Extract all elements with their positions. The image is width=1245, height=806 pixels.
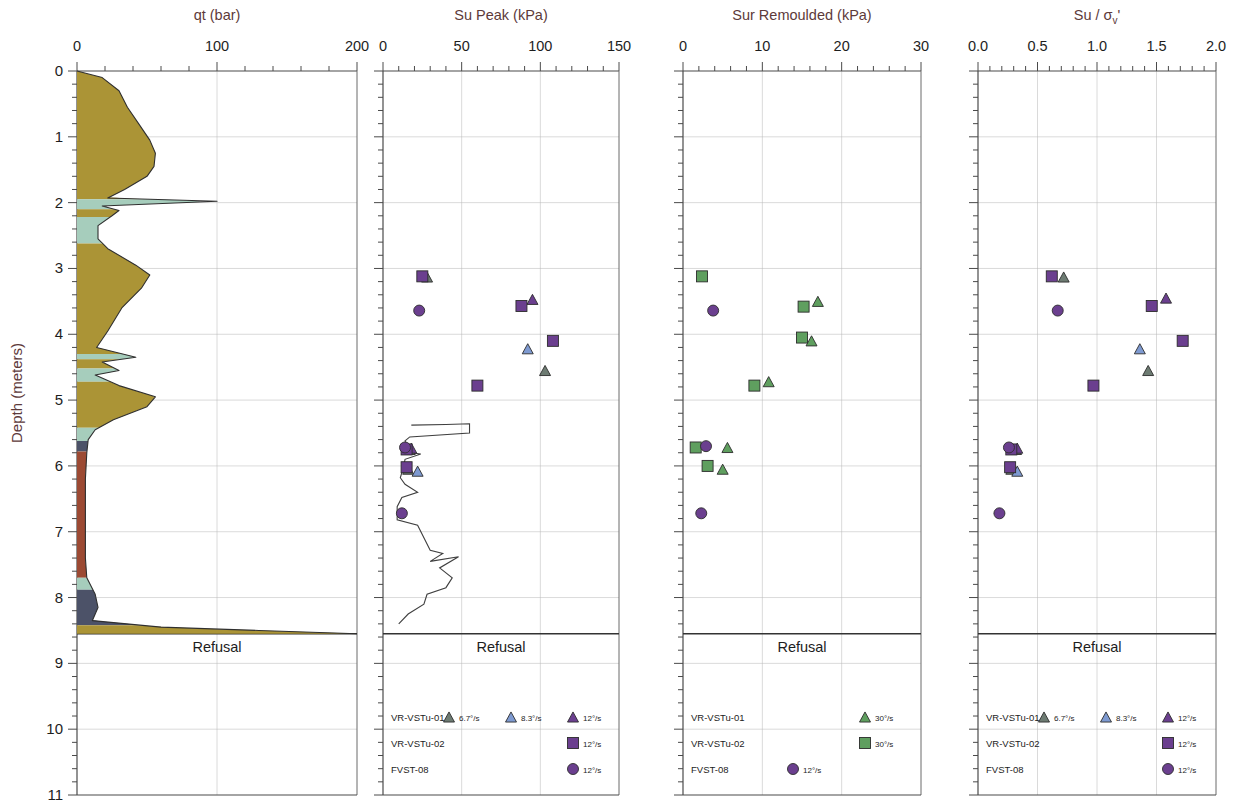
x-tick-label-su-peak-3: 150 [607, 38, 631, 54]
y-tick-label-0: 0 [55, 62, 63, 79]
data-point-su-sigma-0-0 [1058, 272, 1069, 282]
data-point-sur-remoulded-1-5 [702, 460, 713, 471]
data-point-su-peak-1-1 [412, 466, 423, 476]
data-point-su-sigma-1-0 [1134, 344, 1145, 354]
qt-band-13 [77, 590, 140, 626]
y-tick-label-3: 3 [55, 259, 63, 276]
legend-marker-su-sigma-0-2 [1163, 712, 1174, 722]
refusal-label-su-peak: Refusal [476, 639, 525, 655]
legend-rate-su-peak-0-1: 8.3°/s [521, 714, 542, 723]
legend-label-su-sigma-2: FVST-08 [986, 764, 1024, 775]
legend-marker-sur-remoulded-1-0 [860, 738, 871, 749]
legend-rate-su-sigma-2-0: 12°/s [1178, 766, 1196, 775]
panel-sur-remoulded: Sur Remoulded (kPa)0102030Refusal [674, 7, 929, 795]
legend-sur-remoulded: VR-VSTu-0130°/sVR-VSTu-0230°/sFVST-0812°… [691, 712, 893, 775]
data-point-su-sigma-3-1 [1146, 300, 1157, 311]
scatter-su-peak [396, 271, 558, 519]
x-tick-label-su-sigma-0: 0.0 [968, 38, 988, 54]
y-tick-label-6: 6 [55, 457, 63, 474]
chart-svg: Depth (meters)qt (bar)010020001234567891… [0, 0, 1245, 806]
panel-title-qt: qt (bar) [194, 7, 241, 23]
x-tick-label-su-sigma-3: 1.5 [1146, 38, 1166, 54]
legend-label-sur-remoulded-2: FVST-08 [691, 764, 729, 775]
qt-band-0 [77, 71, 155, 199]
data-point-sur-remoulded-1-1 [798, 301, 809, 312]
legend-label-su-peak-2: FVST-08 [391, 764, 429, 775]
x-tick-label-su-sigma-4: 2.0 [1206, 38, 1226, 54]
legend-marker-su-peak-2-0 [568, 764, 579, 775]
cpt-vst-multi-panel-figure: Depth (meters)qt (bar)010020001234567891… [0, 0, 1245, 806]
legend-label-sur-remoulded-0: VR-VSTu-01 [691, 712, 745, 723]
x-tick-label-qt-0: 0 [73, 38, 81, 54]
legend-marker-su-sigma-2-0 [1163, 764, 1174, 775]
x-tick-label-sur-remoulded-1: 10 [754, 38, 770, 54]
refusal-label-su-sigma: Refusal [1072, 639, 1121, 655]
data-point-su-sigma-4-0 [1052, 305, 1063, 316]
data-point-su-peak-3-5 [401, 462, 412, 473]
data-point-su-peak-4-1 [400, 442, 411, 453]
panel-title-su-sigma: Su / σv' [1074, 7, 1121, 26]
data-point-su-peak-3-3 [472, 380, 483, 391]
legend-label-su-sigma-0: VR-VSTu-01 [986, 712, 1040, 723]
x-tick-label-su-peak-2: 100 [528, 38, 552, 54]
data-point-sur-remoulded-0-0 [812, 296, 823, 306]
y-tick-label-1: 1 [55, 128, 63, 145]
x-tick-label-qt-1: 100 [205, 38, 229, 54]
legend-marker-sur-remoulded-0-0 [860, 712, 871, 722]
x-tick-label-su-peak-1: 50 [454, 38, 470, 54]
legend-rate-sur-remoulded-0-0: 30°/s [875, 714, 893, 723]
data-point-sur-remoulded-2-0 [708, 305, 719, 316]
x-tick-label-sur-remoulded-3: 30 [913, 38, 929, 54]
data-point-sur-remoulded-0-2 [763, 377, 774, 387]
legend-rate-su-sigma-1-0: 12°/s [1178, 740, 1196, 749]
data-point-su-peak-3-0 [417, 271, 428, 282]
y-tick-label-5: 5 [55, 391, 63, 408]
x-tick-label-sur-remoulded-0: 0 [679, 38, 687, 54]
qt-band-10 [77, 441, 88, 452]
data-point-sur-remoulded-2-2 [696, 508, 707, 519]
x-tick-label-su-peak-0: 0 [379, 38, 387, 54]
legend-rate-su-peak-0-0: 6.7°/s [459, 714, 480, 723]
legend-marker-sur-remoulded-2-0 [788, 764, 799, 775]
data-point-su-sigma-3-5 [1005, 462, 1016, 473]
legend-label-su-sigma-1: VR-VSTu-02 [986, 738, 1040, 749]
data-point-su-sigma-4-1 [1003, 442, 1014, 453]
legend-label-sur-remoulded-1: VR-VSTu-02 [691, 738, 745, 749]
scatter-sur-remoulded [690, 271, 823, 519]
refusal-label-qt: Refusal [192, 639, 241, 655]
data-point-su-peak-2-0 [527, 294, 538, 304]
panel-title-sur-remoulded: Sur Remoulded (kPa) [732, 7, 871, 23]
data-point-su-peak-1-0 [522, 344, 533, 354]
y-axis-label: Depth (meters) [8, 343, 25, 443]
qt-band-8 [77, 382, 155, 428]
legend-su-sigma: VR-VSTu-016.7°/s8.3°/s12°/sVR-VSTu-0212°… [986, 712, 1196, 775]
data-point-sur-remoulded-1-4 [690, 442, 701, 453]
x-tick-label-qt-2: 200 [345, 38, 369, 54]
data-point-sur-remoulded-1-3 [749, 380, 760, 391]
legend-marker-su-sigma-0-0 [1039, 712, 1050, 722]
legend-rate-su-peak-1-0: 12°/s [583, 740, 601, 749]
data-point-su-sigma-0-1 [1143, 365, 1154, 375]
panel-su-peak: Su Peak (kPa)050100150Refusal [374, 7, 631, 795]
legend-rate-sur-remoulded-1-0: 30°/s [875, 740, 893, 749]
x-tick-label-sur-remoulded-2: 20 [834, 38, 850, 54]
panel-title-su-peak: Su Peak (kPa) [454, 7, 548, 23]
legend-rate-su-sigma-0-0: 6.7°/s [1054, 714, 1075, 723]
y-tick-label-11: 11 [47, 786, 63, 803]
data-point-su-sigma-3-2 [1177, 335, 1188, 346]
legend-rate-su-sigma-0-2: 12°/s [1178, 714, 1196, 723]
scatter-su-sigma [994, 271, 1188, 519]
legend-marker-su-sigma-1-0 [1163, 738, 1174, 749]
y-tick-label-2: 2 [55, 194, 63, 211]
legend-rate-sur-remoulded-2-0: 12°/s [803, 766, 821, 775]
legend-marker-su-peak-1-0 [568, 738, 579, 749]
panel-su-sigma: Su / σv'0.00.51.01.52.0Refusal [968, 7, 1226, 795]
depth-axis: Depth (meters) [8, 343, 25, 443]
legend-label-su-peak-0: VR-VSTu-01 [391, 712, 445, 723]
data-point-su-sigma-3-0 [1046, 271, 1057, 282]
data-point-su-sigma-2-0 [1161, 293, 1172, 303]
y-tick-label-8: 8 [55, 589, 63, 606]
legend-su-peak: VR-VSTu-016.7°/s8.3°/s12°/sVR-VSTu-0212°… [391, 712, 601, 775]
legend-marker-su-sigma-0-1 [1101, 712, 1112, 722]
legend-marker-su-peak-0-2 [568, 712, 579, 722]
